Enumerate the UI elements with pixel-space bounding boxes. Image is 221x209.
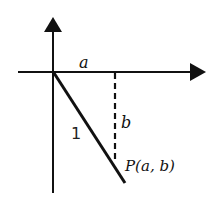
y-axis-arrow-icon [44, 17, 62, 32]
label-point-p: P(a, b) [124, 157, 175, 175]
label-b: b [121, 113, 131, 132]
diagram-canvas: a b 1 P(a, b) [0, 0, 221, 209]
y-axis [44, 17, 62, 193]
x-axis [18, 63, 206, 81]
x-axis-arrow-icon [190, 63, 206, 81]
label-a: a [79, 53, 89, 72]
label-1: 1 [71, 124, 81, 143]
